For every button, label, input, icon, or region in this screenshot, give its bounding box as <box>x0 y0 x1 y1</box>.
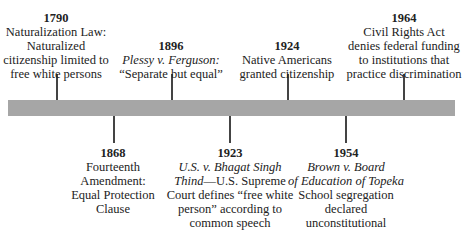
event-text: Native Americans <box>227 53 347 67</box>
tick-1868 <box>113 116 115 143</box>
event-case-title: Plessy v. Ferguson: <box>111 53 231 67</box>
event-text: Court defines “free white <box>164 188 296 202</box>
event-text: to institutions that <box>340 53 466 67</box>
event-case-title: Thind <box>174 174 203 188</box>
event-year: 1954 <box>286 146 406 160</box>
event-case-title: of Education of Topeka <box>286 174 406 188</box>
event-1964: 1964 Civil Rights Act denies federal fun… <box>340 11 466 81</box>
event-text: citizenship limited to <box>0 53 116 67</box>
event-1790: 1790 Naturalization Law: Naturalized cit… <box>0 11 116 81</box>
event-text: free white persons <box>0 67 116 81</box>
event-text: “Separate but equal” <box>111 67 231 81</box>
event-text: Clause <box>63 202 163 216</box>
event-text: granted citizenship <box>227 67 347 81</box>
event-text: declared <box>286 202 406 216</box>
event-text: School segregation <box>286 188 406 202</box>
event-text: Civil Rights Act <box>340 25 466 39</box>
event-text: common speech <box>164 216 296 230</box>
event-text: Naturalization Law: <box>0 25 116 39</box>
event-text: —U.S. Supreme <box>203 174 285 188</box>
event-text: Naturalized <box>0 39 116 53</box>
event-1923: 1923 U.S. v. Bhagat Singh Thind—U.S. Sup… <box>164 146 296 230</box>
event-text: Fourteenth <box>63 160 163 174</box>
event-year: 1964 <box>340 11 466 25</box>
event-text: Equal Protection <box>63 188 163 202</box>
event-text: unconstitutional <box>286 216 406 230</box>
tick-1954 <box>345 116 347 143</box>
event-text: Amendment: <box>63 174 163 188</box>
event-year: 1868 <box>63 146 163 160</box>
event-year: 1790 <box>0 11 116 25</box>
event-text: person” according to <box>164 202 296 216</box>
event-text: practice discrimination <box>340 67 466 81</box>
event-case-title: U.S. v. Bhagat Singh <box>164 160 296 174</box>
tick-1923 <box>229 116 231 143</box>
event-year: 1924 <box>227 39 347 53</box>
event-text: denies federal funding <box>340 39 466 53</box>
event-year: 1923 <box>164 146 296 160</box>
event-1868: 1868 Fourteenth Amendment: Equal Protect… <box>63 146 163 216</box>
event-case-title: Brown v. Board <box>286 160 406 174</box>
timeline-bar <box>8 100 455 116</box>
event-year: 1896 <box>111 39 231 53</box>
event-1924: 1924 Native Americans granted citizenshi… <box>227 39 347 81</box>
event-1954: 1954 Brown v. Board of Education of Tope… <box>286 146 406 230</box>
event-1896: 1896 Plessy v. Ferguson: “Separate but e… <box>111 39 231 81</box>
